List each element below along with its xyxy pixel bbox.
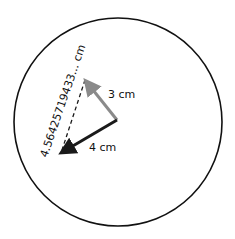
vector-a-label: 3 cm [108, 88, 135, 101]
vector-b-label: 4 cm [89, 141, 116, 154]
boundary-circle [14, 18, 222, 226]
vector-diagram: 3 cm 4 cm 4.56425719433... cm [0, 0, 235, 239]
